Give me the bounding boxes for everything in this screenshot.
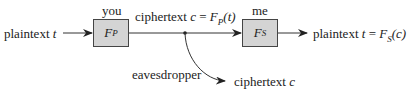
sender-function-box: FP	[93, 19, 129, 47]
sender-role: you	[102, 4, 122, 17]
eavesdropper-output-label: ciphertext c	[234, 75, 295, 88]
channel-label: ciphertext c = FP(t)	[135, 10, 236, 27]
input-label: plaintext t	[4, 27, 56, 40]
receiver-role: me	[252, 4, 268, 17]
output-label: plaintext t = FS(c)	[313, 27, 406, 44]
receiver-function-box: FS	[242, 19, 278, 47]
eavesdropper-label: eavesdropper	[132, 68, 201, 81]
